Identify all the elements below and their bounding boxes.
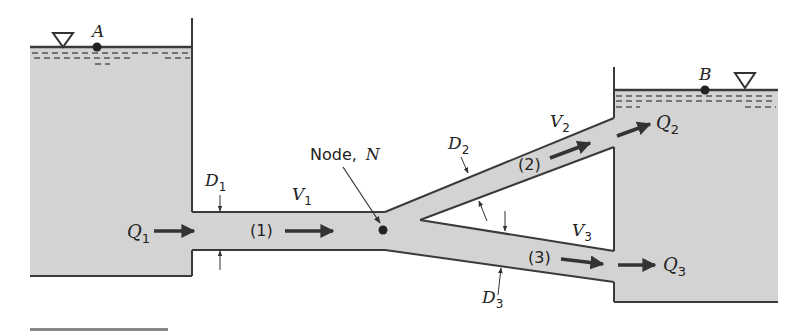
d2-label: D2	[447, 133, 469, 157]
v2-label: V2	[550, 111, 570, 135]
point-b-label: B	[698, 64, 712, 84]
d3-label: D3	[481, 287, 503, 311]
pipe-2-tag: (2)	[518, 155, 541, 174]
d1-label: D1	[204, 170, 226, 194]
d3-arrow-bottom	[498, 268, 501, 295]
node-label: Node, N	[310, 145, 381, 164]
v1-label: V1	[292, 184, 312, 208]
free-surface-icon-downstream	[735, 73, 755, 88]
node-dot	[379, 226, 388, 235]
point-a-dot	[93, 43, 102, 52]
pipe-network-diagram: A B Node, N D1 V1 (1) Q1 D2 V2 (2) Q2 D3…	[0, 0, 793, 331]
point-a-label: A	[90, 21, 104, 41]
free-surface-icon-upstream	[53, 33, 73, 47]
pipe-1-tag: (1)	[250, 221, 273, 240]
point-b-dot	[701, 86, 710, 95]
d2-arrow-top	[461, 157, 468, 173]
pipe-3-tag: (3)	[528, 248, 551, 267]
